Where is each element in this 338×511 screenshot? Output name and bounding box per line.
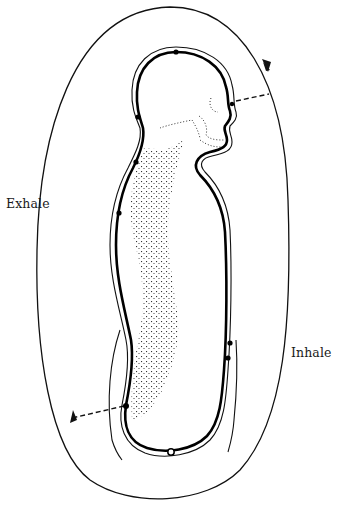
crown-point-marker xyxy=(173,49,178,54)
upper-dashed-connector xyxy=(236,94,269,101)
belly-lower-point-marker xyxy=(225,355,230,360)
exhale-label: Exhale xyxy=(6,196,50,211)
spine-dotted-region xyxy=(131,140,184,420)
inhale-label: Inhale xyxy=(291,345,332,360)
mid-back-point-marker xyxy=(116,210,121,215)
lower-dashed-connector xyxy=(72,406,124,418)
belly-upper-point-marker xyxy=(227,340,232,345)
diagram-canvas xyxy=(0,0,338,511)
left-hip-curve xyxy=(109,330,122,460)
third-eye-point-marker xyxy=(230,102,234,106)
back-of-head-point-marker xyxy=(135,114,140,119)
lower-back-point-marker xyxy=(123,403,129,409)
upper-back-point-marker xyxy=(133,159,138,164)
perineum-point-marker xyxy=(168,449,174,455)
neck-dotted-line xyxy=(160,120,200,138)
face-dotted-outline xyxy=(199,98,224,147)
